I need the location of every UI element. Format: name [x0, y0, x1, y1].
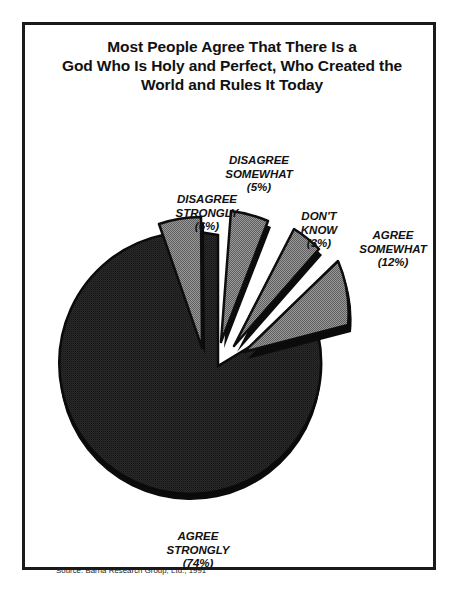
pie-label-disagree-somewhat-line2: SOMEWHAT — [207, 168, 311, 182]
pie-label-disagree-strongly: DISAGREE STRONGLY (6%) — [161, 193, 253, 234]
pie-label-agree-somewhat-pct: (12%) — [341, 256, 445, 270]
figure-frame: Most People Agree That There Is a God Wh… — [22, 22, 436, 570]
pie-chart — [25, 25, 433, 567]
pie-label-agree-strongly: AGREE STRONGLY (74%) — [143, 530, 253, 571]
pie-label-dont-know-line1: DON'T — [283, 210, 355, 224]
pie-chart-svg — [25, 25, 433, 567]
pie-label-agree-somewhat: AGREE SOMEWHAT (12%) — [341, 229, 445, 270]
pie-label-disagree-strongly-pct: (6%) — [161, 220, 253, 234]
pie-label-agree-somewhat-line2: SOMEWHAT — [341, 243, 445, 257]
pie-label-agree-strongly-line1: AGREE — [143, 530, 253, 544]
pie-label-disagree-strongly-line1: DISAGREE — [161, 193, 253, 207]
pie-label-agree-somewhat-line1: AGREE — [341, 229, 445, 243]
pie-label-disagree-strongly-line2: STRONGLY — [161, 207, 253, 221]
pie-label-disagree-somewhat-line1: DISAGREE — [207, 154, 311, 168]
figure-page: Most People Agree That There Is a God Wh… — [0, 0, 460, 595]
source-note: Source: Barna Research Group, Ltd., 1991 — [56, 566, 206, 575]
pie-label-disagree-somewhat: DISAGREE SOMEWHAT (5%) — [207, 154, 311, 195]
pie-label-agree-strongly-line2: STRONGLY — [143, 544, 253, 558]
